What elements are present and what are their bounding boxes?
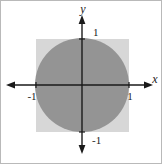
coordinate-plane-figure: 1 -1 1 -1 x y	[1, 1, 162, 164]
figure-container: 1 -1 1 -1 x y	[0, 0, 162, 164]
x-axis-tick-label-positive-one: 1	[127, 90, 133, 102]
x-axis-tick-label-negative-one: -1	[27, 90, 36, 102]
x-axis-arrow-left	[6, 82, 15, 89]
y-axis-label: y	[79, 2, 86, 16]
y-axis-tick-label-negative-one: -1	[92, 134, 101, 146]
y-axis-arrow-up	[79, 15, 86, 24]
x-axis-label: x	[151, 72, 158, 86]
y-axis-arrow-down	[79, 145, 86, 154]
y-axis-tick-label-positive-one: 1	[93, 26, 99, 38]
